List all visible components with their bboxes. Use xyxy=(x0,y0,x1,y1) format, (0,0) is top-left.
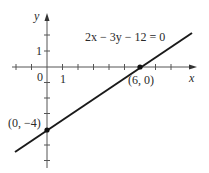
y-intercept-label: (0, −4) xyxy=(8,116,41,130)
point-y-intercept xyxy=(44,127,49,132)
x-intercept-label: (6, 0) xyxy=(128,73,154,87)
equation-label: 2x − 3y − 12 = 0 xyxy=(85,30,165,44)
y-tick-label-1: 1 xyxy=(36,44,42,58)
origin-label: 0 xyxy=(37,70,43,84)
point-x-intercept xyxy=(137,64,142,69)
x-axis-arrow-icon xyxy=(189,65,197,70)
x-axis-label: x xyxy=(188,71,195,85)
y-axis-label: y xyxy=(33,9,40,23)
y-axis-arrow-icon xyxy=(45,13,50,21)
graph-canvas: y x 1 0 1 2x − 3y − 12 = 0 (6, 0) (0, −4… xyxy=(0,0,209,173)
x-tick-label-1: 1 xyxy=(60,72,66,86)
